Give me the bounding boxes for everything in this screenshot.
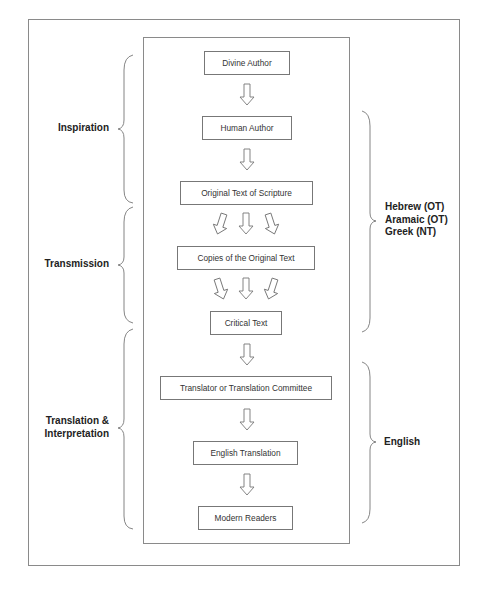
node-label: Copies of the Original Text [197, 253, 294, 263]
node-modern-readers: Modern Readers [198, 506, 293, 530]
node-translator: Translator or Translation Committee [160, 376, 332, 400]
node-english-translation: English Translation [193, 441, 298, 465]
label-line: Greek (NT) [385, 226, 448, 239]
process-frame [143, 37, 350, 544]
node-critical-text: Critical Text [210, 311, 282, 335]
label-line: Translation & [45, 415, 109, 428]
label-line: Interpretation [45, 428, 109, 441]
label-original-languages: Hebrew (OT) Aramaic (OT) Greek (NT) [385, 201, 448, 239]
node-label: Divine Author [222, 58, 271, 68]
node-human-author: Human Author [202, 116, 292, 140]
node-divine-author: Divine Author [204, 51, 290, 75]
node-copies: Copies of the Original Text [177, 246, 315, 270]
label-inspiration: Inspiration [58, 122, 109, 135]
node-original-text: Original Text of Scripture [180, 181, 313, 205]
label-transmission: Transmission [45, 258, 109, 271]
node-label: Translator or Translation Committee [180, 383, 312, 393]
node-label: Critical Text [225, 318, 268, 328]
label-translation-interpretation: Translation & Interpretation [45, 415, 109, 440]
node-label: Original Text of Scripture [201, 188, 292, 198]
label-line: Aramaic (OT) [385, 214, 448, 227]
node-label: English Translation [210, 448, 280, 458]
label-line: Hebrew (OT) [385, 201, 448, 214]
node-label: Modern Readers [215, 513, 277, 523]
label-english: English [384, 436, 420, 449]
node-label: Human Author [220, 123, 273, 133]
